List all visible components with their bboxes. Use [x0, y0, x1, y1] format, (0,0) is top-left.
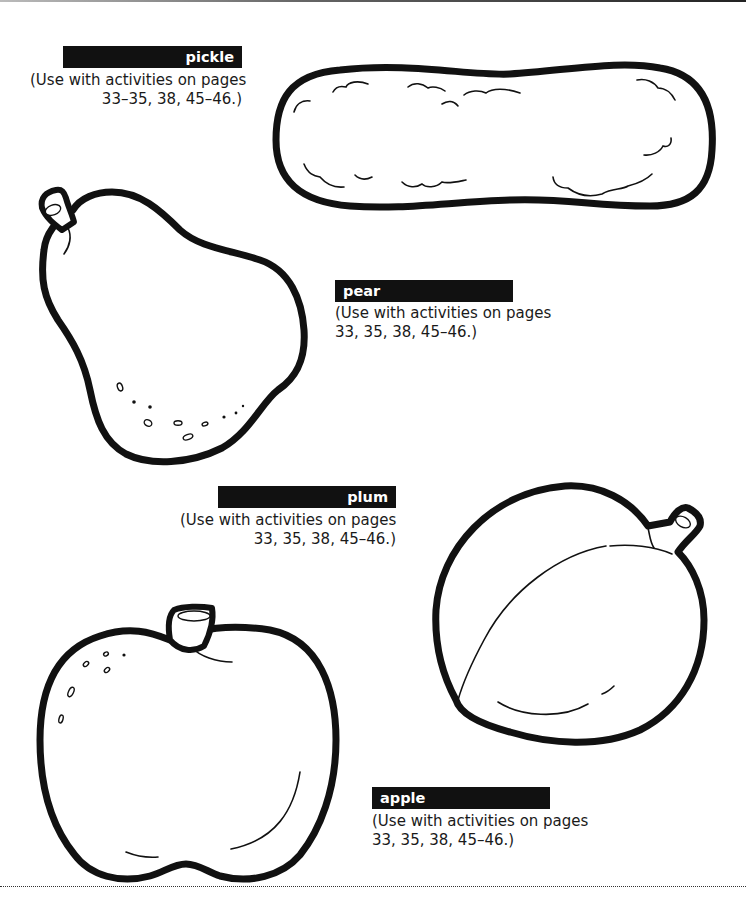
apple-label: apple — [372, 787, 550, 809]
pear-caption: (Use with activities on pages 33, 35, 38… — [335, 304, 555, 342]
pear-illustration — [0, 170, 330, 470]
pear-caption-line1: (Use with activities on pages — [335, 304, 555, 323]
pickle-illustration — [270, 60, 746, 210]
pickle-caption-line2: 33–35, 38, 45–46.) — [30, 90, 242, 109]
plum-label: plum — [218, 486, 396, 508]
plum-caption-line2: 33, 35, 38, 45–46.) — [180, 530, 396, 549]
pear-label: pear — [335, 280, 513, 302]
plum-caption-line1: (Use with activities on pages — [180, 511, 396, 530]
apple-caption-line2: 33, 35, 38, 45–46.) — [372, 831, 592, 850]
apple-caption-line1: (Use with activities on pages — [372, 812, 592, 831]
cut-line-divider — [0, 886, 746, 887]
page-top-edge — [0, 0, 746, 2]
plum-caption: (Use with activities on pages 33, 35, 38… — [180, 511, 396, 549]
pickle-label: pickle — [63, 46, 242, 68]
pear-caption-line2: 33, 35, 38, 45–46.) — [335, 323, 555, 342]
pickle-caption: (Use with activities on pages 33–35, 38,… — [30, 71, 242, 109]
apple-caption: (Use with activities on pages 33, 35, 38… — [372, 812, 592, 850]
plum-illustration — [420, 470, 746, 770]
pickle-caption-line1: (Use with activities on pages — [30, 71, 242, 90]
apple-illustration — [20, 600, 360, 890]
